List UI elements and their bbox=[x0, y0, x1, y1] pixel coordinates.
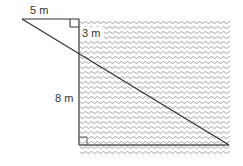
label-depth: 8 m bbox=[55, 92, 73, 104]
right-angle-top-icon bbox=[70, 19, 79, 27]
label-short-vertical: 3 m bbox=[82, 27, 100, 39]
label-top-length: 5 m bbox=[30, 4, 48, 16]
diagram-canvas: 5 m 3 m 8 m bbox=[0, 0, 243, 166]
water-region bbox=[80, 20, 230, 155]
